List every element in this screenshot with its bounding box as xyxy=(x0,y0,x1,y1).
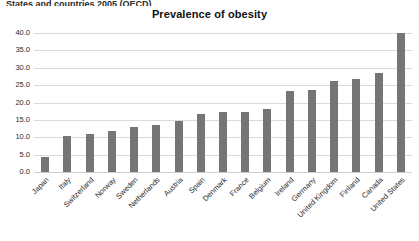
x-axis-label-slot: Japan xyxy=(34,174,56,240)
bar-slot xyxy=(34,33,56,172)
bar xyxy=(152,125,160,172)
bar-slot xyxy=(390,33,412,172)
bar-slot xyxy=(167,33,189,172)
bar xyxy=(108,131,116,172)
bar xyxy=(352,79,360,172)
bar-slot xyxy=(212,33,234,172)
x-axis-label-slot: Belgium xyxy=(256,174,278,240)
bar-slot xyxy=(145,33,167,172)
y-axis-tick-label: 10.0 xyxy=(4,133,30,141)
bar-slot xyxy=(256,33,278,172)
x-axis-label-slot: Norway xyxy=(101,174,123,240)
bar xyxy=(263,109,271,172)
x-axis-tick-labels: JapanItalySwitzerlandNorwaySwedenNetherl… xyxy=(34,174,412,240)
y-axis-tick-label: 20.0 xyxy=(4,99,30,107)
bar-slot xyxy=(190,33,212,172)
bar-chart: Prevalence of obesity 0.05.010.015.020.0… xyxy=(0,0,419,241)
gridline xyxy=(34,172,412,173)
bar-series xyxy=(34,33,412,172)
bar xyxy=(86,134,94,172)
chart-title: Prevalence of obesity xyxy=(0,8,419,20)
plot-area xyxy=(34,33,412,172)
x-axis-label-slot: Austria xyxy=(167,174,189,240)
bar-slot xyxy=(368,33,390,172)
bar-slot xyxy=(279,33,301,172)
y-axis-tick-label: 5.0 xyxy=(4,151,30,159)
bar-slot xyxy=(323,33,345,172)
bar xyxy=(41,157,49,172)
x-axis-label-slot: United Kingdom xyxy=(323,174,345,240)
x-axis-label-slot: United States xyxy=(390,174,412,240)
x-axis-label-slot: Spain xyxy=(190,174,212,240)
bar-slot xyxy=(234,33,256,172)
bar-slot xyxy=(345,33,367,172)
bar xyxy=(397,33,405,172)
bar-slot xyxy=(123,33,145,172)
x-axis-label-slot: Denmark xyxy=(212,174,234,240)
bar xyxy=(219,112,227,172)
y-axis-tick-label: 15.0 xyxy=(4,116,30,124)
y-axis-tick-label: 0.0 xyxy=(4,168,30,176)
bar xyxy=(175,121,183,172)
x-axis-tick-label: Japan xyxy=(31,176,51,196)
x-axis-tick-label: Italy xyxy=(58,176,73,191)
y-axis-tick-label: 25.0 xyxy=(4,81,30,89)
bar xyxy=(286,91,294,172)
y-axis-tick-label: 30.0 xyxy=(4,64,30,72)
bar xyxy=(375,73,383,172)
bar-slot xyxy=(101,33,123,172)
y-axis-tick-label: 35.0 xyxy=(4,46,30,54)
bar-slot xyxy=(56,33,78,172)
bar xyxy=(197,114,205,172)
x-axis-label-slot: Finland xyxy=(345,174,367,240)
x-axis-label-slot: Netherlands xyxy=(145,174,167,240)
bar xyxy=(63,136,71,172)
bar xyxy=(330,81,338,172)
x-axis-label-slot: France xyxy=(234,174,256,240)
x-axis-label-slot: Switzerland xyxy=(78,174,100,240)
y-axis-tick-label: 40.0 xyxy=(4,29,30,37)
x-axis-label-slot: Ireland xyxy=(279,174,301,240)
bar xyxy=(130,127,138,172)
bar xyxy=(308,90,316,172)
bar-slot xyxy=(78,33,100,172)
bar xyxy=(241,112,249,172)
bar-slot xyxy=(301,33,323,172)
